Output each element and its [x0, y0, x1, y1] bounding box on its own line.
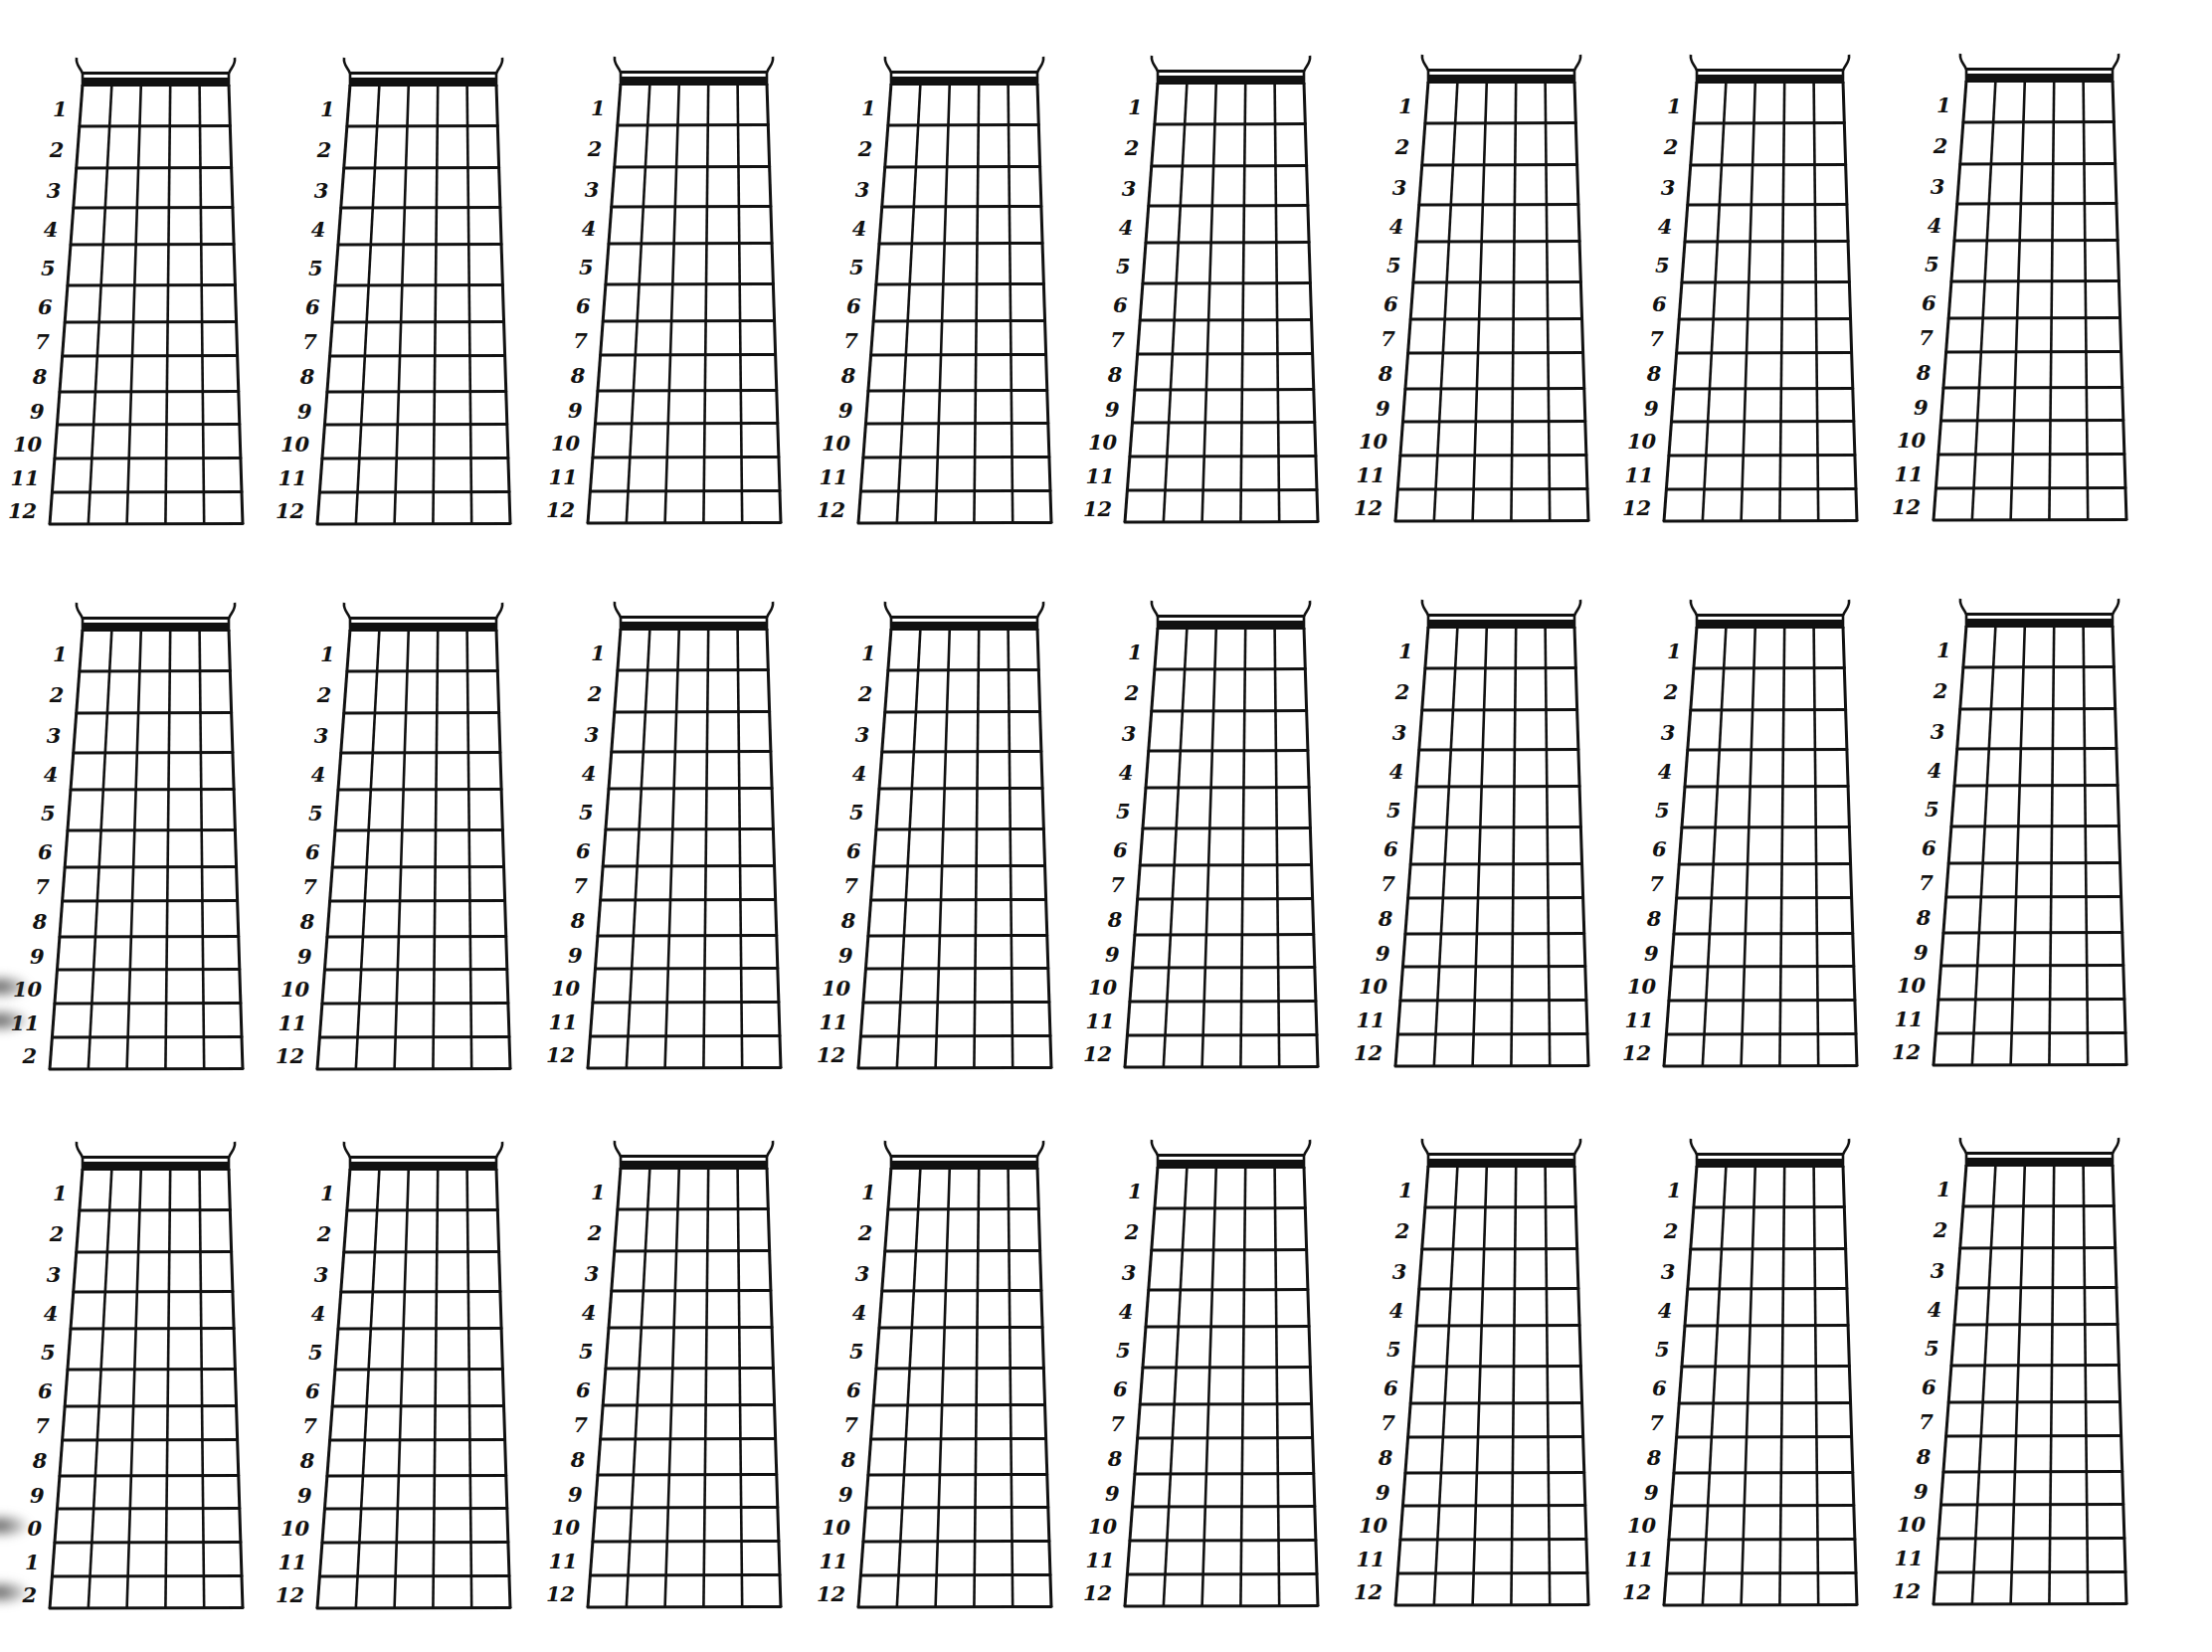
fret-line [1688, 1289, 1847, 1290]
fret-number-label: 10 [1077, 432, 1117, 453]
fret-line [882, 752, 1041, 753]
nut-bar [1697, 75, 1843, 84]
fret-number-label: 3 [1635, 722, 1675, 743]
fret-number-label: 1 [1912, 94, 1951, 115]
nut-top-line [1428, 614, 1574, 617]
fret-line [1143, 1368, 1310, 1369]
fretboard-diagram: 123456789101112 [1874, 1134, 2113, 1631]
fret-line [863, 1542, 1049, 1543]
fretboard-diagram: 123456789101112 [1065, 1136, 1304, 1633]
fret-number-label: 2 [1370, 681, 1409, 702]
headstock-curl-icon [885, 1141, 891, 1170]
fret-number-label: 10 [270, 1518, 309, 1539]
fret-line [1682, 282, 1849, 283]
fret-number-label: 1 [1103, 1181, 1143, 1201]
headstock-curl-icon [2113, 599, 2119, 628]
fretboard-diagram: 123456789101112 [528, 598, 767, 1095]
fret-number-label: 11 [1075, 1010, 1115, 1031]
fret-line [1672, 422, 1854, 423]
fret-line [871, 900, 1046, 901]
fret-number-label: 5 [1091, 256, 1131, 276]
fret-number-label: 8 [1353, 908, 1392, 929]
fret-line [325, 1509, 507, 1510]
fret-line [1416, 242, 1579, 243]
fret-line [58, 970, 240, 971]
fret-number-label: 4 [1364, 1300, 1403, 1321]
fret-number-label: 5 [1362, 1339, 1401, 1360]
fret-line [1419, 205, 1578, 206]
fret-number-label: 4 [827, 763, 866, 784]
headstock-curl-icon [615, 1141, 621, 1170]
fret-number-label: 8 [816, 910, 855, 931]
fretboard-diagram: 123456789101112 [1336, 1135, 1574, 1632]
fret-line [879, 1328, 1042, 1329]
fret-number-label: 6 [13, 841, 53, 862]
nut-bar [1697, 1159, 1843, 1168]
nut-bar [1966, 619, 2113, 628]
fret-number-label: 12 [1881, 1580, 1921, 1601]
fret-line [888, 1209, 1038, 1210]
fret-number-label: 3 [559, 724, 599, 745]
fret-line [63, 901, 238, 902]
fret-number-label: 4 [18, 764, 58, 785]
fret-line [1943, 1472, 2122, 1473]
nut-top-line [1966, 613, 2113, 616]
fret-line [609, 789, 772, 790]
fret-number-label: 4 [18, 1303, 58, 1324]
fret-line [71, 245, 234, 246]
headstock-curl-icon [344, 58, 350, 87]
fret-number-label: 2 [24, 684, 64, 705]
fret-number-label: 8 [816, 1449, 855, 1470]
fret-number-label: 8 [545, 1449, 585, 1470]
fret-number-label: 9 [543, 945, 583, 966]
fret-line [1677, 1437, 1852, 1438]
fret-number-label: 8 [1621, 363, 1661, 384]
fret-number-label: 11 [538, 466, 578, 487]
fret-number-label: 9 [1080, 399, 1120, 420]
fret-line [77, 1252, 232, 1253]
fret-line [873, 321, 1044, 322]
fretboard-diagram: 123456789101112 [258, 54, 496, 551]
fret-line [60, 392, 239, 393]
fretboard-grid [1336, 596, 1614, 1073]
fret-line [615, 1251, 770, 1252]
fret-number-label: 11 [268, 1012, 307, 1033]
fret-number-label: 10 [1886, 1514, 1926, 1535]
headstock-curl-icon [344, 603, 350, 632]
fret-number-label: 7 [1624, 873, 1664, 894]
fret-line [1694, 1207, 1844, 1208]
fret-line [1951, 826, 2119, 827]
fret-line [1135, 1474, 1314, 1475]
nut-top-line [621, 71, 767, 74]
fret-line [347, 1210, 497, 1211]
fret-line [1422, 1249, 1577, 1250]
fret-line [1679, 319, 1850, 320]
fret-number-label: 4 [1093, 1301, 1133, 1322]
headstock-curl-icon [767, 57, 773, 86]
fret-number-label: 3 [830, 179, 869, 200]
fret-line [1138, 1438, 1313, 1439]
fret-line [1954, 241, 2118, 242]
fret-number-label: 12 [806, 1044, 845, 1065]
fret-number-label: 4 [1364, 216, 1403, 237]
fret-line [879, 789, 1042, 790]
fret-line [1957, 204, 2117, 205]
fret-line [1155, 124, 1305, 125]
fretboard-diagram: 123456789101112 [258, 1138, 496, 1635]
nut-bar [1428, 620, 1574, 629]
fret-number-label: 7 [1085, 1413, 1125, 1434]
fret-number-label: 4 [285, 764, 325, 785]
fret-number-label: 2 [1638, 136, 1678, 157]
fret-line [68, 830, 235, 831]
fretboard-diagram: 123456789101112 [1604, 596, 1843, 1093]
fret-number-label: 2 [1908, 135, 1947, 156]
fret-number-label: 2 [1370, 1220, 1409, 1241]
fret-number-label: 7 [548, 1414, 588, 1435]
fret-number-label: 6 [1627, 1377, 1667, 1398]
fret-line [1422, 710, 1577, 711]
fret-line [618, 670, 768, 671]
fret-number-label: 5 [1900, 1338, 1939, 1359]
fretboard-grid [1604, 596, 1883, 1073]
fret-number-label: 11 [1614, 464, 1654, 485]
fret-number-label: 9 [1351, 943, 1390, 964]
